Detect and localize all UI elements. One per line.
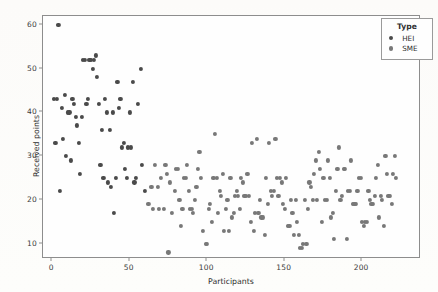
legend-entry-label: HEI: [402, 34, 414, 43]
scatter-plot-figure: Received points 102030405060 05010015020…: [0, 0, 438, 292]
data-point: [100, 128, 104, 132]
data-point: [372, 193, 376, 197]
data-point: [56, 23, 60, 27]
x-tick-mark: [361, 258, 362, 261]
legend-entry: SME: [386, 44, 428, 53]
data-point: [270, 193, 274, 197]
data-point: [162, 207, 166, 211]
data-point: [241, 180, 245, 184]
data-point: [309, 185, 313, 189]
data-point: [258, 198, 262, 202]
data-point: [121, 141, 125, 145]
data-point: [297, 233, 301, 237]
data-point: [120, 145, 124, 149]
legend: Type HEISME: [381, 18, 433, 60]
data-point: [293, 198, 297, 202]
data-point: [247, 193, 251, 197]
data-point: [273, 137, 277, 141]
data-point: [377, 215, 381, 219]
data-point: [267, 141, 271, 145]
data-point: [159, 176, 163, 180]
data-point: [64, 154, 68, 158]
data-point: [383, 154, 387, 158]
data-point: [222, 228, 226, 232]
data-point: [73, 115, 77, 119]
data-point: [123, 167, 127, 171]
y-axis-title: Received points: [32, 115, 41, 177]
data-point: [394, 176, 398, 180]
data-point: [75, 123, 79, 127]
data-point: [197, 150, 201, 154]
data-point: [169, 211, 173, 215]
data-point: [173, 189, 177, 193]
data-point: [334, 189, 338, 193]
data-point: [151, 207, 155, 211]
data-point: [180, 207, 184, 211]
legend-title: Type: [386, 22, 428, 31]
data-point: [355, 189, 359, 193]
data-point: [266, 202, 270, 206]
data-point: [109, 185, 113, 189]
y-tick-label: 20: [27, 194, 37, 203]
data-point: [320, 220, 324, 224]
data-point: [219, 193, 223, 197]
data-point: [317, 150, 321, 154]
data-point: [86, 97, 90, 101]
data-point: [101, 176, 105, 180]
data-point: [321, 176, 325, 180]
data-point: [248, 220, 252, 224]
data-point: [111, 110, 115, 114]
x-tick-label: 50: [124, 263, 134, 272]
legend-entries: HEISME: [386, 34, 428, 54]
data-point: [207, 207, 211, 211]
data-point: [380, 198, 384, 202]
data-point: [84, 101, 88, 105]
data-point: [312, 172, 316, 176]
legend-marker-icon: [389, 46, 393, 50]
data-point: [230, 215, 234, 219]
data-point: [358, 176, 362, 180]
data-point: [354, 202, 358, 206]
data-point: [326, 158, 330, 162]
data-point: [340, 193, 344, 197]
data-point: [382, 224, 386, 228]
data-point: [129, 145, 133, 149]
data-point: [117, 106, 121, 110]
data-point: [329, 215, 333, 219]
data-point: [135, 101, 139, 105]
data-point: [331, 211, 335, 215]
data-point: [168, 180, 172, 184]
data-point: [83, 58, 87, 62]
data-point: [193, 198, 197, 202]
legend-marker-icon: [389, 36, 393, 40]
data-point: [199, 176, 203, 180]
data-point: [77, 141, 81, 145]
data-point: [176, 167, 180, 171]
data-point: [125, 176, 129, 180]
data-point: [55, 97, 59, 101]
data-point: [261, 215, 265, 219]
data-point: [287, 224, 291, 228]
data-point: [216, 211, 220, 215]
data-point: [156, 185, 160, 189]
data-point: [80, 115, 84, 119]
data-point: [231, 211, 235, 215]
data-point: [393, 154, 397, 158]
data-point: [388, 193, 392, 197]
data-point: [225, 198, 229, 202]
data-point: [284, 176, 288, 180]
x-tick-mark: [51, 258, 52, 261]
data-point: [264, 176, 268, 180]
data-point: [224, 207, 228, 211]
data-point: [166, 250, 170, 254]
y-tick-label: 50: [27, 63, 37, 72]
data-point: [191, 211, 195, 215]
data-point: [183, 176, 187, 180]
data-point: [306, 207, 310, 211]
data-point: [163, 163, 167, 167]
data-point: [58, 189, 62, 193]
data-point: [131, 80, 135, 84]
data-point: [165, 172, 169, 176]
data-point: [59, 106, 63, 110]
data-point: [374, 176, 378, 180]
